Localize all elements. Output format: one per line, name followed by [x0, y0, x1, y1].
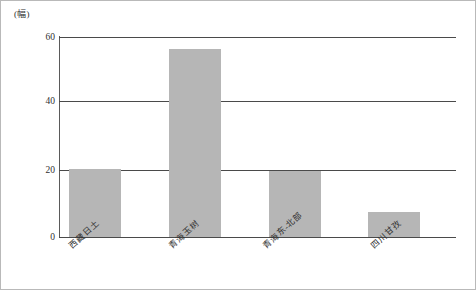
- plot-area: [59, 37, 456, 237]
- y-tick-label-0: 0: [9, 232, 55, 242]
- y-tick-label-60: 60: [9, 32, 55, 42]
- x-axis-labels: 西藏日土 青海玉树 青海东-北部 四川甘孜: [59, 241, 456, 289]
- chart-page: (幅) 60 40 20 0 西藏日土 青海玉树 青海东-北部 四川甘孜: [0, 0, 476, 290]
- x-axis-line: [59, 237, 456, 238]
- bar-1: [169, 49, 221, 237]
- y-tick-label-40: 40: [9, 96, 55, 106]
- y-axis-unit-label: (幅): [14, 9, 30, 20]
- y-tick-label-20: 20: [9, 165, 55, 175]
- gridline-40: [59, 101, 456, 102]
- gridline-60: [59, 37, 456, 38]
